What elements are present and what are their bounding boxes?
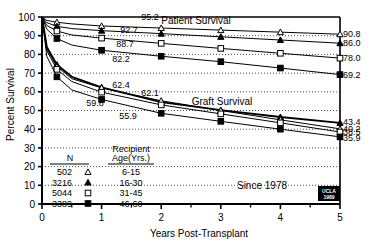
series-marker — [337, 55, 343, 61]
x-tick-label: 1 — [99, 212, 105, 223]
x-tick-label: 4 — [278, 212, 284, 223]
series-marker — [54, 28, 60, 34]
right-value-label: 86.0 — [343, 38, 361, 48]
y-axis-title: Percent Survival — [5, 68, 16, 141]
axes-frame — [42, 17, 340, 204]
series-marker — [158, 102, 164, 108]
series-marker — [158, 111, 164, 117]
legend-n-value: 3389 — [52, 199, 72, 209]
series-marker — [99, 47, 105, 53]
right-edge-labels: 90.886.078.069.243.440.238.535.9 — [343, 29, 361, 142]
y-tick-label: 0 — [29, 199, 35, 210]
legend-age-value: 16-30 — [119, 178, 142, 188]
series-marker — [337, 134, 343, 140]
legend: NRecipientAge(Yrs.) — [50, 144, 154, 164]
chart-figure: 0102030405060708090100012345Years Post-T… — [0, 0, 382, 249]
series-marker — [99, 89, 105, 95]
series-marker — [158, 41, 164, 47]
data-label: 55.9 — [119, 111, 137, 121]
data-label: 82.2 — [112, 54, 130, 64]
since-annotation: Since 1978 — [237, 180, 287, 191]
logo-line2: 1989 — [323, 194, 334, 200]
series-marker — [278, 120, 284, 126]
series-marker — [54, 67, 60, 73]
x-axis-ticks: 012345 — [39, 204, 343, 223]
right-value-label: 35.9 — [343, 133, 361, 143]
data-label: 59.8 — [86, 98, 104, 108]
ucla-logo: UCLA1989 — [318, 186, 340, 201]
data-label: 88.7 — [116, 39, 134, 49]
series-6 — [42, 17, 343, 131]
legend-n-value: 502 — [57, 167, 72, 177]
series-marker — [99, 35, 105, 41]
series-marker — [54, 74, 60, 80]
legend-row[interactable]: 321616-30 — [52, 178, 143, 188]
series-marker — [218, 59, 224, 65]
data-label: 62.1 — [141, 88, 159, 98]
series-4 — [42, 17, 343, 77]
right-value-label: 69.2 — [343, 70, 361, 80]
y-tick-label: 30 — [24, 143, 36, 154]
y-tick-label: 40 — [24, 124, 36, 135]
y-tick-label: 90 — [24, 30, 36, 41]
data-label: 62.4 — [112, 80, 130, 90]
series-marker — [278, 65, 284, 71]
series-marker — [158, 53, 164, 59]
series-marker — [278, 50, 284, 56]
y-tick-label: 50 — [24, 105, 36, 116]
x-tick-label: 5 — [337, 212, 343, 223]
legend-header-n: N — [67, 153, 74, 163]
x-tick-label: 2 — [158, 212, 164, 223]
x-tick-label: 3 — [218, 212, 224, 223]
x-axis-title: Years Post-Transplant — [150, 228, 248, 239]
series-marker — [218, 46, 224, 52]
graft-survival-annotation: Graft Survival — [192, 96, 253, 107]
legend-n-value: 5044 — [52, 188, 72, 198]
y-tick-label: 10 — [24, 180, 36, 191]
survival-chart-svg: 0102030405060708090100012345Years Post-T… — [0, 0, 382, 249]
logo-line1: UCLA — [322, 188, 336, 194]
series-line — [42, 17, 340, 129]
gridlines — [42, 36, 340, 186]
patient-survival-annotation: Patient Survival — [161, 15, 230, 26]
legend-age-value: 46-60 — [119, 199, 142, 209]
series-marker — [218, 119, 224, 125]
series-line — [42, 17, 340, 132]
series-marker — [278, 126, 284, 132]
legend-header-age-line2: Age(Yrs.) — [112, 153, 150, 163]
right-value-label: 78.0 — [343, 53, 361, 63]
y-tick-label: 60 — [24, 86, 36, 97]
legend-row[interactable]: 5026-15 — [57, 167, 140, 177]
y-tick-label: 20 — [24, 161, 36, 172]
x-tick-label: 0 — [39, 212, 45, 223]
series-marker — [54, 36, 60, 42]
data-label: 92.7 — [120, 25, 138, 35]
series-marker — [218, 111, 224, 117]
legend-marker-filled-triangle-icon — [85, 179, 91, 185]
y-axis-ticks: 0102030405060708090100 — [18, 12, 42, 210]
y-tick-label: 80 — [24, 49, 36, 60]
legend-marker-open-square-icon — [85, 190, 91, 196]
legend-row[interactable]: 504431-45 — [52, 188, 143, 198]
legend-age-value: 31-45 — [119, 188, 142, 198]
y-tick-label: 100 — [18, 12, 35, 23]
y-tick-label: 70 — [24, 68, 36, 79]
legend-marker-open-triangle-icon — [85, 169, 91, 175]
legend-n-value: 3216 — [52, 178, 72, 188]
series-marker — [337, 72, 343, 78]
legend-age-value: 6-15 — [122, 167, 140, 177]
legend-marker-filled-square-icon — [85, 201, 91, 207]
data-label: 95.2 — [141, 12, 159, 22]
